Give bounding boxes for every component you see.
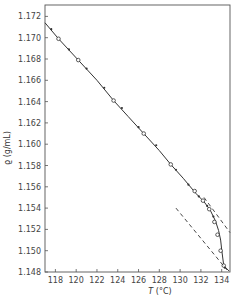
y-tick-label: 1.152 — [18, 225, 41, 234]
x-axis-label-unit: (°C) — [153, 287, 171, 296]
open-circle-marker — [213, 220, 217, 224]
y-tick-label: 1.164 — [18, 98, 41, 107]
x-axis-label: T (°C) — [148, 287, 171, 296]
y-tick-label: 1.150 — [18, 247, 41, 256]
x-tick-label: 118 — [48, 276, 63, 285]
x-tick-label: 134 — [214, 276, 229, 285]
open-circle-marker — [169, 163, 173, 167]
x-tick-label: 120 — [69, 276, 84, 285]
plot-frame — [45, 5, 230, 272]
y-tick-label: 1.170 — [18, 34, 41, 43]
open-circle-marker — [219, 249, 223, 253]
open-circle-marker — [112, 99, 116, 103]
y-axis-label: ϱ (g/mL) — [3, 131, 12, 165]
y-tick-label: 1.162 — [18, 119, 41, 128]
x-tick-label: 128 — [152, 276, 167, 285]
y-tick-label: 1.154 — [18, 204, 41, 213]
filled-dot-marker — [121, 107, 123, 109]
filled-dot-marker — [198, 195, 200, 197]
dashed-tangent-line — [176, 208, 227, 270]
x-tick-label: 130 — [172, 276, 187, 285]
filled-dot-marker — [85, 67, 87, 69]
y-tick-label: 1.156 — [18, 183, 41, 192]
filled-dot-marker — [187, 184, 189, 186]
density-curve-line — [45, 23, 229, 271]
x-tick-label: 124 — [110, 276, 125, 285]
filled-dot-marker — [137, 126, 139, 128]
filled-dot-marker — [103, 87, 105, 89]
open-circle-marker — [193, 189, 197, 193]
y-tick-label: 1.160 — [18, 140, 41, 149]
density-temperature-chart: 118120122124126128130132134 1.1481.1501.… — [0, 0, 234, 299]
filled-dot-marker — [155, 144, 157, 146]
filled-dot-marker — [175, 169, 177, 171]
y-tick-label: 1.168 — [18, 55, 41, 64]
y-axis-ticks: 1.1481.1501.1521.1541.1561.1581.1601.162… — [18, 12, 48, 277]
open-circle-marker — [57, 37, 61, 41]
filled-dot-marker — [212, 216, 214, 218]
open-circle-marker — [207, 207, 211, 211]
filled-dot-marker — [206, 205, 208, 207]
x-axis-ticks: 118120122124126128130132134 — [48, 269, 230, 285]
open-circle-marker — [216, 233, 220, 237]
y-tick-label: 1.158 — [18, 162, 41, 171]
y-tick-label: 1.166 — [18, 76, 41, 85]
x-tick-label: 126 — [131, 276, 146, 285]
filled-dot-marker — [68, 48, 70, 50]
x-tick-label: 122 — [89, 276, 104, 285]
open-circle-marker — [142, 132, 146, 136]
open-circle-marker — [76, 58, 80, 62]
y-tick-label: 1.148 — [18, 268, 41, 277]
x-tick-label: 132 — [193, 276, 208, 285]
y-tick-label: 1.172 — [18, 12, 41, 21]
open-circle-marker — [201, 199, 205, 203]
dashed-tangent-line — [204, 197, 230, 232]
series-layer — [45, 23, 230, 271]
filled-dot-marker — [50, 28, 52, 30]
